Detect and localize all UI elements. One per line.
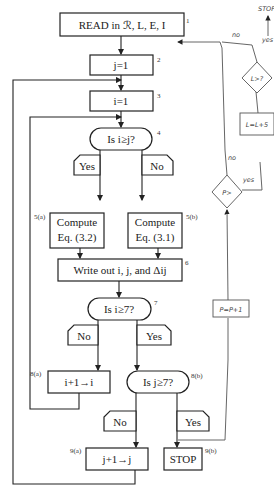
- svg-text:3: 3: [157, 92, 161, 100]
- svg-text:4: 4: [157, 129, 161, 137]
- svg-text:Eq. (3.2): Eq. (3.2): [58, 231, 97, 244]
- svg-text:Yes: Yes: [79, 160, 95, 172]
- svg-text:i+1→i: i+1→i: [65, 376, 94, 388]
- node-stop: STOP 9(b): [164, 447, 217, 470]
- svg-text:yes: yes: [261, 36, 274, 44]
- node-j-init: j=1 2: [90, 55, 161, 75]
- node-write-output: Write out i, j, and Δij 6: [58, 259, 189, 281]
- node-4-label: Is i≥j?: [107, 133, 135, 145]
- svg-text:7: 7: [154, 299, 158, 307]
- svg-text:no: no: [228, 154, 236, 162]
- node-compute-eq-3-2: Compute Eq. (3.2) 5(a): [34, 213, 104, 248]
- svg-text:P>: P>: [222, 189, 231, 197]
- node-2-label: j=1: [113, 59, 129, 71]
- svg-text:L>?: L>?: [251, 75, 264, 83]
- svg-text:Is i≥7?: Is i≥7?: [104, 303, 134, 315]
- svg-text:8(a): 8(a): [30, 370, 42, 378]
- svg-text:P=P+1: P=P+1: [220, 306, 243, 314]
- svg-text:Yes: Yes: [185, 416, 201, 428]
- svg-text:No: No: [113, 416, 127, 428]
- node-read-input: READ in ℛ, L, E, I 1: [60, 13, 190, 36]
- svg-text:Eq. (3.1): Eq. (3.1): [136, 231, 175, 244]
- svg-text:j+1→j: j+1→j: [102, 453, 132, 465]
- svg-text:L=L+5: L=L+5: [246, 121, 268, 129]
- node-increment-j: j+1→j 9(a): [70, 447, 148, 470]
- svg-text:yes: yes: [242, 176, 255, 184]
- svg-text:8(b): 8(b): [191, 372, 203, 380]
- node-decision-i-ge-j: Is i≥j? 4: [90, 128, 161, 150]
- label-d8-yes: Yes: [177, 411, 209, 431]
- label-d7-yes: Yes: [137, 325, 171, 345]
- svg-text:5(a): 5(a): [34, 213, 46, 221]
- node-1-number: 1: [186, 17, 190, 25]
- svg-text:no: no: [232, 31, 240, 39]
- svg-text:No: No: [150, 160, 164, 172]
- svg-text:9(b): 9(b): [205, 447, 217, 455]
- node-increment-i: i+1→i 8(a): [30, 370, 110, 393]
- svg-text:Is j≥7?: Is j≥7?: [143, 376, 173, 388]
- node-compute-eq-3-1: Compute Eq. (3.1) 5(b): [128, 213, 198, 248]
- svg-text:5(b): 5(b): [186, 213, 198, 221]
- label-d4-yes: Yes: [74, 155, 100, 175]
- svg-text:Yes: Yes: [146, 330, 162, 342]
- svg-text:6: 6: [185, 259, 189, 267]
- svg-text:Compute: Compute: [57, 216, 97, 228]
- label-d8-no: No: [104, 411, 136, 431]
- node-decision-i-ge-7: Is i≥7? 7: [88, 298, 158, 320]
- svg-text:Compute: Compute: [135, 216, 175, 228]
- svg-text:Write out i, j, and Δij: Write out i, j, and Δij: [73, 264, 166, 276]
- node-decision-j-ge-7: Is j≥7? 8(b): [127, 371, 203, 393]
- svg-text:9(a): 9(a): [70, 447, 82, 455]
- label-d4-no: No: [142, 155, 173, 175]
- node-3-label: i=1: [114, 95, 129, 107]
- svg-text:No: No: [77, 330, 91, 342]
- node-1-label: READ in ℛ, L, E, I: [79, 19, 166, 31]
- svg-text:STOP: STOP: [170, 453, 197, 465]
- label-d7-no: No: [68, 325, 98, 345]
- node-i-init: i=1 3: [90, 91, 161, 111]
- svg-text:2: 2: [157, 56, 161, 64]
- svg-text:STOP: STOP: [258, 5, 274, 13]
- flowchart-canvas: READ in ℛ, L, E, I 1 j=1 2 i=1 3 Is i≥j?…: [0, 0, 274, 495]
